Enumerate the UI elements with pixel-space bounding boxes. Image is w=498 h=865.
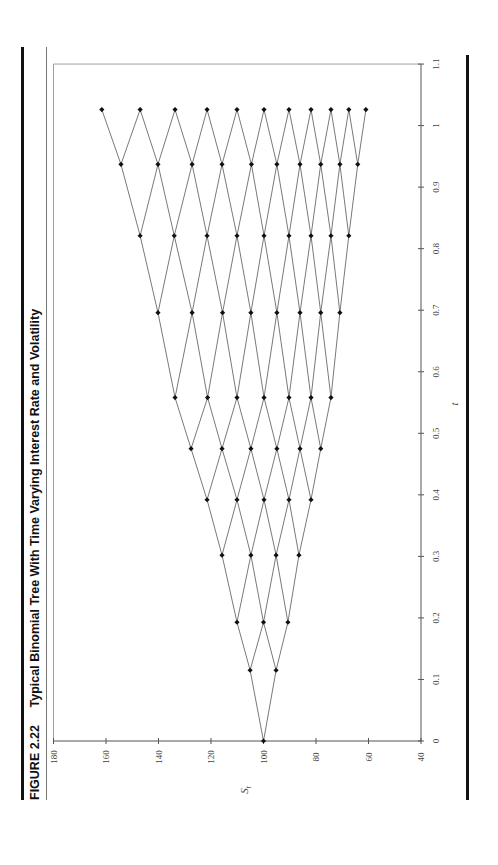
tree-edge [237,622,250,670]
tree-edge [251,164,264,235]
tree-edge [331,236,340,313]
tree-edge [264,164,277,235]
tree-edge [158,236,174,313]
tree-edges [102,110,366,741]
tree-edge [192,313,207,398]
tree-edge [222,398,237,449]
tree-node [363,107,368,112]
tree-edge [191,449,207,500]
tree-edge [300,164,311,235]
tree-edge [289,164,300,235]
tree-edge [191,398,208,449]
tree-edge [311,164,321,235]
tree-edge [277,164,289,235]
tree-edge [299,500,311,555]
tree-edge [264,555,277,622]
tree-edge [175,398,191,449]
tree-node [248,446,253,451]
tree-edge [192,236,207,313]
t-axis-label: t [448,402,460,406]
tree-edge [251,398,264,449]
tree-node [308,497,313,502]
tree-edge [321,313,331,398]
tree-edge [207,500,222,555]
s-axis-tick-label: 180 [49,750,59,764]
tree-edge [264,500,276,555]
tree-node [205,395,210,400]
tree-node [286,233,291,238]
s-axis-tick-label: 80 [311,752,321,762]
t-axis-tick-label: 0.1 [431,674,441,685]
tree-edge [289,313,300,398]
tree-node [248,310,253,315]
tree-edge [222,449,237,500]
tree-edge [175,313,192,398]
tree-edge [237,236,251,313]
tree-node [355,162,360,167]
tree-edge [223,236,237,313]
tree-node [234,233,239,238]
s-axis-tick-label: 160 [101,750,111,764]
t-axis-tick-label: 0.4 [431,489,441,501]
tree-edge [237,555,251,622]
tree-node [261,497,266,502]
tree-node [138,107,143,112]
tree-node [296,553,301,558]
tree-node [155,162,160,167]
tree-edge [207,164,222,235]
tree-edge [311,313,321,398]
tree-edge [321,110,331,165]
t-axis: 00.10.20.30.40.50.60.70.80.911.1 [418,58,441,743]
tree-edge [192,164,207,235]
tree-edge [251,449,264,500]
tree-node [138,233,143,238]
tree-node [318,310,323,315]
tree-edge [340,236,349,313]
t-axis-tick-label: 0.8 [431,243,441,255]
tree-edge [300,398,311,449]
tree-node [155,310,160,315]
tree-edge [207,449,222,500]
tree-node [118,162,123,167]
tree-edge [264,398,277,449]
tree-edge [250,622,263,670]
tree-node [172,395,177,400]
tree-node [204,233,209,238]
tree-edge [251,555,264,622]
tree-edge [264,313,277,398]
tree-edge [321,398,331,449]
tree-edge [207,236,222,313]
tree-edge [251,500,264,555]
t-axis-tick-label: 0 [431,738,441,743]
tree-node [297,446,302,451]
tree-edge [121,164,140,235]
tree-node [261,107,266,112]
tree-node [297,310,302,315]
tree-edge [289,110,300,165]
tree-edge [277,236,289,313]
tree-edge [321,164,331,235]
tree-node [261,395,266,400]
tree-node [337,310,342,315]
tree-edge [222,555,237,622]
tree-node [172,233,177,238]
tree-edge [237,313,251,398]
tree-node [274,446,279,451]
tree-edge [264,236,277,313]
tree-edge [208,398,222,449]
tree-node [234,107,239,112]
tree-edge [264,670,277,741]
tree-node [99,107,104,112]
tree-edge [102,110,121,165]
tree-edge [222,110,237,165]
tree-node [234,620,239,625]
tree-edge [192,110,207,165]
tree-node [328,107,333,112]
t-axis-tick-label: 0.9 [431,181,441,193]
tree-edge [289,236,300,313]
t-axis-tick-label: 0.5 [431,427,441,439]
tree-edge [158,110,175,165]
tree-edge [223,313,237,398]
tree-edge [250,670,263,741]
tree-node [285,620,290,625]
